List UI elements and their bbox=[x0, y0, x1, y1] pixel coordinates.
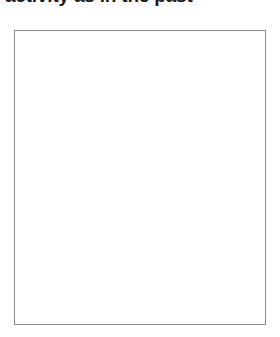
content-placeholder-box[interactable] bbox=[14, 30, 266, 325]
page-title: activity as in the past bbox=[5, 0, 193, 7]
heading-clip-region: activity as in the past bbox=[0, 0, 280, 9]
page-root: activity as in the past bbox=[0, 0, 280, 337]
content-placeholder-area bbox=[15, 31, 265, 324]
